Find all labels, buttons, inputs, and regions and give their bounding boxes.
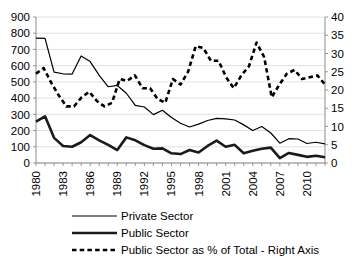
x-axis-tick-label: 1983 [57,171,69,197]
x-axis-tick-label: 1986 [84,171,96,197]
left-axis-tick-label: 100 [11,141,30,153]
legend-label: Public Sector [121,227,189,239]
x-axis-tick-label: 2001 [220,171,232,197]
left-axis-tick-label: 0 [24,157,30,169]
right-axis-tick-label: 30 [331,48,344,60]
left-axis-tick-label: 400 [11,92,30,104]
chart-figure: 0100200300400500600700800900 05101520253… [0,0,362,258]
right-axis-tick-label: 10 [331,121,344,133]
legend-label: Private Sector [121,210,193,222]
x-axis-tick-label: 1992 [138,171,150,197]
left-axis-tick-label: 800 [11,27,30,39]
left-axis-tick-label: 200 [11,125,30,137]
right-axis-tick-label: 0 [331,157,337,169]
x-axis-tick-label: 2010 [301,171,313,197]
right-axis-tick-label: 20 [331,84,344,96]
right-axis-tick-label: 15 [331,102,344,114]
legend-label: Public Sector as % of Total - Right Axis [121,244,319,256]
right-axis-tick-label: 25 [331,66,344,78]
left-axis-tick-label: 500 [11,76,30,88]
x-axis-tick-label: 1989 [111,171,123,197]
x-axis-tick-label: 1995 [165,171,177,197]
x-axis-tick-label: 2007 [274,171,286,197]
x-axis-tick-label: 1980 [30,171,42,197]
line-chart: 0100200300400500600700800900 05101520253… [0,0,362,258]
left-axis-tick-label: 900 [11,11,30,23]
x-axis-tick-label: 2004 [247,170,259,196]
right-axis-tick-label: 40 [331,11,344,23]
right-axis-tick-label: 5 [331,139,337,151]
right-axis-tick-label: 35 [331,29,344,41]
left-axis-tick-label: 700 [11,44,30,56]
x-axis-tick-label: 1998 [193,171,205,197]
left-axis-tick-label: 600 [11,60,30,72]
left-axis-tick-label: 300 [11,109,30,121]
